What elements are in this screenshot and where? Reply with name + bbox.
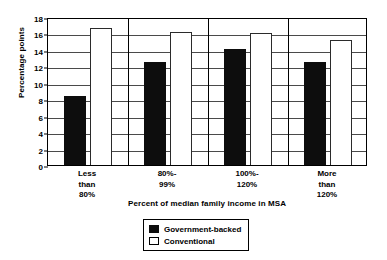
bar-conventional (170, 32, 192, 165)
x-axis-category-label: Less than 80% (47, 169, 127, 201)
bar-conventional (90, 28, 112, 165)
bar-government-backed (304, 62, 326, 165)
plot-area: 024681012141618 (47, 18, 367, 166)
bar-government-backed (64, 96, 86, 165)
y-axis-tick-label: 10 (13, 80, 48, 89)
y-axis-tick-label: 18 (13, 15, 48, 24)
y-axis-tick-mark (44, 19, 48, 20)
group-separator-line (208, 19, 209, 165)
group-separator-line (288, 19, 289, 165)
bar-conventional (250, 33, 272, 165)
legend-item-government-backed: Government-backed (149, 223, 241, 235)
legend-label-conventional: Conventional (164, 237, 215, 246)
y-axis-tick-label: 16 (13, 31, 48, 40)
x-axis-category-label: 100%- 120% (207, 169, 287, 190)
bar-government-backed (144, 62, 166, 165)
y-axis-tick-label: 6 (13, 113, 48, 122)
legend-swatch-hollow-icon (149, 237, 159, 245)
chart-legend: Government-backed Conventional (143, 219, 249, 251)
bar-conventional (330, 40, 352, 165)
y-axis-tick-mark (44, 134, 48, 135)
bar-chart-figure: Percentage points 024681012141618 Percen… (0, 0, 387, 260)
y-axis-tick-label: 2 (13, 146, 48, 155)
y-axis-tick-mark (44, 35, 48, 36)
y-axis-tick-mark (44, 84, 48, 85)
legend-item-conventional: Conventional (149, 235, 241, 247)
x-axis-category-label: 80%- 99% (127, 169, 207, 190)
legend-label-government-backed: Government-backed (164, 225, 241, 234)
x-axis-category-label: More than 120% (287, 169, 367, 201)
y-axis-tick-mark (44, 101, 48, 102)
y-axis-tick-label: 0 (13, 163, 48, 172)
bar-government-backed (224, 49, 246, 165)
y-axis-tick-mark (44, 51, 48, 52)
y-axis-tick-label: 12 (13, 64, 48, 73)
y-axis-tick-label: 14 (13, 47, 48, 56)
y-axis-tick-mark (44, 117, 48, 118)
y-axis-tick-mark (44, 68, 48, 69)
plot-inner: 024681012141618 (48, 19, 366, 165)
y-axis-tick-mark (44, 167, 48, 168)
y-axis-tick-mark (44, 150, 48, 151)
group-separator-line (128, 19, 129, 165)
y-axis-tick-label: 8 (13, 97, 48, 106)
legend-swatch-filled-icon (149, 225, 159, 233)
y-axis-tick-label: 4 (13, 130, 48, 139)
